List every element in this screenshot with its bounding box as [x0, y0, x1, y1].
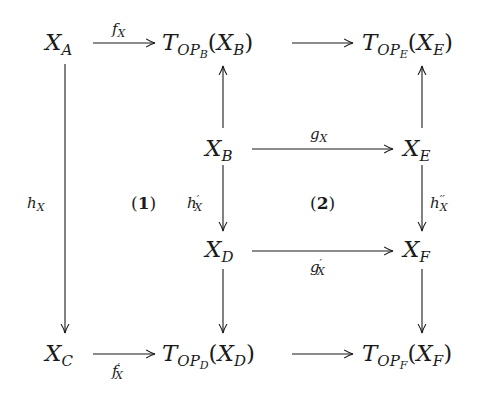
label-hX-base: h [27, 194, 37, 212]
region-1-open: ( [131, 193, 138, 213]
region-2-num: 2 [317, 193, 329, 213]
node-XB-base: X [205, 135, 221, 161]
node-TF-arg: X [416, 340, 432, 366]
node-TF: TOPF(XF) [362, 342, 452, 366]
node-TD-argsub: D [234, 352, 246, 370]
label-h2X-base: h [430, 194, 440, 212]
label-gX-base: g [310, 125, 320, 143]
node-TD-arg: X [218, 340, 234, 366]
node-TD-op: T [162, 340, 177, 366]
node-XA: XA [45, 31, 72, 54]
node-XF-base: X [403, 236, 419, 262]
node-TE-opsubsub: E [400, 48, 408, 61]
region-2-close: ) [328, 193, 335, 213]
node-TF-op: T [362, 340, 377, 366]
node-XB-sub: B [221, 147, 232, 165]
label-h1X: h′X [187, 196, 202, 211]
node-XF-sub: F [419, 248, 429, 266]
label-g1X-sub: X [317, 265, 325, 278]
node-XA-sub: A [61, 41, 72, 59]
label-h2X-sub: X [440, 201, 448, 214]
node-TE-opsub: OP [377, 41, 399, 59]
node-XF: XF [403, 238, 430, 261]
node-TB-op: T [162, 29, 177, 55]
label-g1X: g′X [310, 260, 325, 275]
node-XC-base: X [45, 340, 61, 366]
region-label-1: (1) [131, 195, 156, 212]
node-XE-base: X [403, 135, 419, 161]
label-hX: hX [27, 196, 45, 211]
label-hX-sub: X [37, 201, 45, 214]
node-TB-argsub: B [233, 41, 244, 59]
label-f1X: f′X [112, 364, 123, 379]
label-fX-sub: X [118, 27, 126, 40]
node-TE-arg: X [417, 29, 433, 55]
label-h1X-sub: X [194, 201, 202, 214]
node-XC-sub: C [61, 352, 72, 370]
node-TD: TOPD(XD) [162, 342, 255, 366]
node-TE-op: T [362, 29, 377, 55]
node-XC: XC [45, 342, 73, 365]
node-TB-opsub: OP [177, 41, 199, 59]
node-TB-opsubsub: B [200, 48, 208, 61]
label-f1X-sub: X [115, 369, 123, 382]
node-TD-opsubsub: D [200, 359, 209, 372]
region-label-2: (2) [310, 195, 335, 212]
node-TE: TOPE(XE) [362, 31, 453, 55]
node-TF-opsub: OP [377, 352, 399, 370]
node-XD-sub: D [221, 248, 233, 266]
node-XD: XD [205, 238, 233, 261]
node-XA-base: X [45, 29, 61, 55]
region-2-open: ( [310, 193, 317, 213]
node-TE-argsub: E [433, 41, 444, 59]
label-gX: gX [310, 127, 327, 142]
node-XE: XE [403, 137, 430, 160]
node-TB-arg: X [217, 29, 233, 55]
label-fX: fX [112, 22, 125, 37]
region-1-num: 1 [138, 193, 150, 213]
node-XD-base: X [205, 236, 221, 262]
node-TB: TOPB(XB) [162, 31, 253, 55]
region-1-close: ) [149, 193, 156, 213]
node-XB: XB [205, 137, 232, 160]
node-TD-opsub: OP [177, 352, 199, 370]
node-XE-sub: E [419, 147, 430, 165]
label-h2X: h′′X [430, 196, 448, 211]
label-gX-sub: X [320, 132, 328, 145]
node-TF-argsub: F [433, 352, 443, 370]
